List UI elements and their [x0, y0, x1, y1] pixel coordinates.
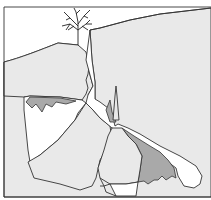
cross-section-drawing	[0, 0, 211, 200]
illustration	[0, 0, 211, 200]
